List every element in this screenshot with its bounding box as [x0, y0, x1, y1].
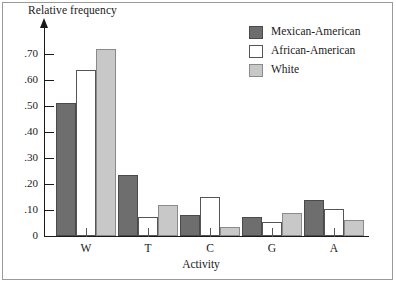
x-tick-mark [334, 228, 335, 237]
bar [282, 213, 302, 236]
y-tick-label: .20 [8, 178, 38, 189]
relative-frequency-bar-chart: Relative frequency 0.10.20.30.40.50.60.7… [0, 0, 396, 283]
x-tick-mark [272, 228, 273, 237]
bar [96, 49, 116, 236]
y-tick-label-text: .20 [8, 178, 38, 189]
legend-item: Mexican-American [249, 23, 391, 41]
legend-label: White [271, 64, 299, 76]
x-axis-title: Activity [0, 258, 396, 270]
x-axis-line [44, 236, 369, 237]
y-tick-label: .10 [8, 204, 38, 215]
x-tick-label-t: T [128, 242, 168, 254]
x-tick-label-c: C [190, 242, 230, 254]
legend-swatch-african-american [249, 45, 263, 58]
bar [242, 217, 262, 237]
y-axis-title: Relative frequency [28, 4, 117, 16]
y-tick-label-text: .10 [8, 204, 38, 215]
y-tick-label: 0 [8, 230, 38, 241]
y-tick-label-text: .60 [8, 74, 38, 85]
y-tick-label-text: .50 [8, 100, 38, 111]
y-tick-label-text: 0 [8, 230, 38, 241]
y-tick-label-text: .40 [8, 126, 38, 137]
x-tick-label-w: W [66, 242, 106, 254]
y-tick-label: .60 [8, 74, 38, 85]
y-tick-label-text: .30 [8, 152, 38, 163]
legend-item: African-American [249, 42, 391, 60]
bar [118, 175, 138, 236]
bar [304, 200, 324, 236]
legend-swatch-white [249, 64, 263, 77]
bar [344, 220, 364, 236]
legend-swatch-mexican-american [249, 26, 263, 39]
x-axis-title-text: Activity [182, 258, 220, 270]
bar [76, 70, 96, 236]
y-tick-label-text: .70 [8, 48, 38, 59]
bar [180, 215, 200, 236]
y-tick-label: .70 [8, 48, 38, 59]
y-tick-label: .30 [8, 152, 38, 163]
legend: Mexican-American African-American White [249, 23, 391, 80]
legend-label: Mexican-American [271, 26, 360, 38]
bar [56, 103, 76, 236]
x-tick-label-g: G [252, 242, 292, 254]
legend-label: African-American [271, 45, 355, 57]
legend-item: White [249, 61, 391, 79]
x-tick-mark [86, 228, 87, 237]
y-tick-label: .40 [8, 126, 38, 137]
x-tick-mark [210, 228, 211, 237]
y-tick-label: .50 [8, 100, 38, 111]
bar [158, 205, 178, 236]
bar [220, 227, 240, 236]
x-tick-label-a: A [314, 242, 354, 254]
x-tick-mark [148, 228, 149, 237]
